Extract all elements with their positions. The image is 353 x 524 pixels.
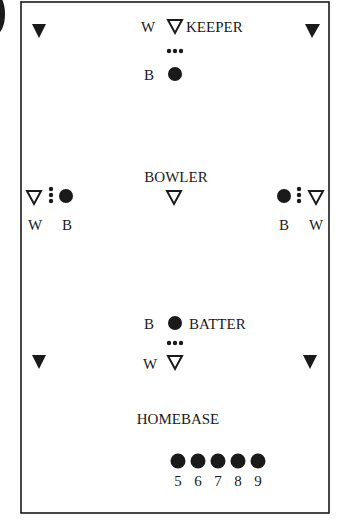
batter-ball-stack-icon	[167, 341, 183, 345]
homebase-label: HOMEBASE	[137, 411, 220, 427]
right-wicket-label: W	[309, 217, 324, 233]
left-ball-stack-icon	[49, 187, 53, 203]
corner-base-top-right-icon	[305, 24, 320, 38]
field-diagram: W KEEPER B BOWLER W B B W B BATTER W HOM…	[0, 0, 353, 524]
right-batter-label: B	[279, 217, 289, 233]
batter-label: BATTER	[189, 316, 246, 332]
corner-base-bottom-right-icon	[303, 355, 317, 369]
left-batter-icon	[59, 189, 73, 203]
waiting-batters: 56789	[171, 454, 266, 490]
partial-circle-marker	[0, 0, 5, 34]
keeper-batter-icon	[168, 67, 182, 81]
keeper-batter-label: B	[144, 67, 154, 83]
waiting-batter-number: 8	[234, 473, 242, 489]
waiting-batter-icon	[251, 454, 266, 469]
keeper-label: KEEPER	[186, 19, 243, 35]
waiting-batter-number: 5	[174, 473, 182, 489]
right-wicket-icon	[309, 191, 323, 204]
bowler-wicket-icon	[167, 191, 181, 204]
right-ball-stack-icon	[297, 187, 301, 203]
batter-wicket-icon	[168, 356, 182, 369]
right-batter-icon	[277, 189, 291, 203]
waiting-batter-icon	[231, 454, 246, 469]
left-batter-label: B	[62, 217, 72, 233]
keeper-ball-stack-icon	[167, 49, 183, 53]
left-wicket-icon	[27, 191, 41, 204]
corner-base-top-left-icon	[32, 24, 46, 38]
corner-base-bottom-left-icon	[32, 355, 46, 369]
keeper-wicket-label: W	[141, 19, 156, 35]
batter-wicket-label: W	[143, 356, 158, 372]
bowler-label: BOWLER	[144, 169, 207, 185]
batter-batter-label: B	[144, 316, 154, 332]
waiting-batter-icon	[211, 454, 226, 469]
left-wicket-label: W	[28, 217, 43, 233]
waiting-batter-number: 9	[254, 473, 262, 489]
waiting-batter-icon	[191, 454, 206, 469]
waiting-batter-number: 6	[194, 473, 202, 489]
waiting-batter-icon	[171, 454, 186, 469]
batter-icon	[168, 316, 182, 330]
keeper-wicket-icon	[168, 20, 182, 33]
waiting-batter-number: 7	[214, 473, 222, 489]
